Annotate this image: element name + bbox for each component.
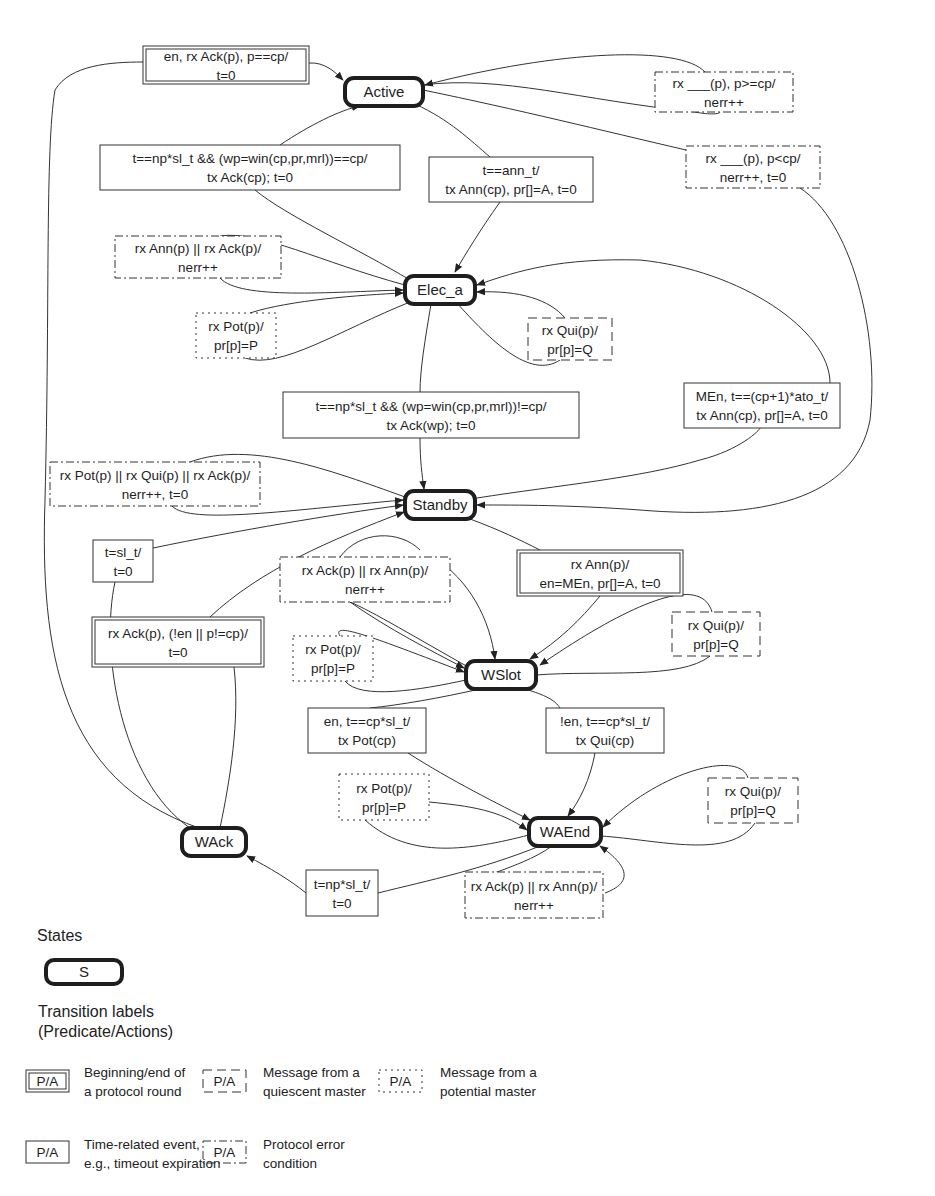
label-line: nerr++: [178, 260, 218, 275]
transition-label-np-sl-t: t=np*sl_t/t=0: [306, 870, 378, 916]
state-wslot: WSlot: [466, 661, 536, 689]
label-line: rx Qui(p)/: [725, 784, 782, 799]
label-line: rx ___(p), p>=cp/: [673, 76, 776, 91]
transition-label-rx-ann: rx Ann(p)/en=MEn, pr[]=A, t=0: [517, 550, 683, 596]
state-label: Elec_a: [417, 281, 464, 298]
legend-desc-line: quiescent master: [263, 1082, 366, 1101]
transition-label-pot-wslot: rx Pot(p)/pr[p]=P: [293, 636, 373, 681]
legend-sample-dotted: P/A: [379, 1070, 422, 1092]
label-line: pr[p]=P: [214, 338, 258, 353]
label-line: nerr++, t=0: [720, 170, 786, 185]
legend-transitions-sub: (Predicate/Actions): [38, 1022, 173, 1042]
state-label: WAck: [195, 833, 234, 850]
legend-desc-line: condition: [263, 1154, 345, 1173]
legend-desc-line: e.g., timeout expiration: [84, 1154, 221, 1173]
label-line: rx Qui(p)/: [688, 618, 745, 633]
transition-label-win-eq-cp: t==np*sl_t && (wp=win(cp,pr,mrl))==cp/tx…: [100, 145, 400, 190]
label-line: MEn, t==(cp+1)*ato_t/: [696, 389, 829, 404]
label-line: t==ann_t/: [482, 163, 539, 178]
transition-label-ann-t: t==ann_t/tx Ann(cp), pr[]=A, t=0: [429, 157, 593, 202]
edge-annack-to-elec: [220, 278, 403, 293]
label-line: pr[p]=P: [362, 800, 406, 815]
label-line: pr[p]=Q: [693, 637, 738, 652]
transition-label-pot-qui-ack: rx Pot(p) || rx Qui(p) || rx Ack(p)/nerr…: [50, 462, 260, 506]
legend-desc-dashed: Message from aquiescent master: [263, 1063, 366, 1101]
label-line: rx Pot(p)/: [356, 781, 412, 796]
label-line: t=0: [113, 564, 132, 579]
label-line: tx Qui(cp): [576, 733, 635, 748]
label-line: t==np*sl_t && (wp=win(cp,pr,mrl))!=cp/: [315, 399, 546, 414]
legend-desc-line: Protocol error: [263, 1135, 345, 1154]
edge-winne-to-standby: [420, 438, 424, 489]
transition-label-rx-p-lt-cp: rx ___(p), p<cp/nerr++, t=0: [686, 146, 820, 188]
legend-transitions-heading: Transition labels: [38, 1002, 154, 1022]
label-line: t==np*sl_t && (wp=win(cp,pr,mrl))==cp/: [132, 151, 367, 166]
transition-label-en-pot: en, t==cp*sl_t/tx Pot(cp): [308, 708, 426, 753]
label-line: rx Ann(p)/: [571, 557, 630, 572]
legend-desc-dashdot: Protocol errorcondition: [263, 1135, 345, 1173]
label-line: !en, t==cp*sl_t/: [560, 714, 650, 729]
legend-desc-line: potential master: [440, 1082, 537, 1101]
legend-desc-line: Message from a: [263, 1063, 366, 1082]
label-line: pr[p]=Q: [730, 803, 775, 818]
edge-npslt-to-wack: [247, 856, 306, 893]
label-line: tx Ack(wp); t=0: [387, 418, 476, 433]
legend-sample-dashed: P/A: [203, 1070, 246, 1092]
transition-labels: en, rx Ack(p), p==cp/t=0rx ___(p), p>=cp…: [50, 46, 840, 918]
edge-active-to-ann-t: [415, 104, 490, 157]
legend-sample-double: P/A: [26, 1070, 69, 1092]
label-line: t=0: [216, 68, 235, 83]
label-line: en, rx Ack(p), p==cp/: [164, 49, 289, 64]
transition-label-pot-elec: rx Pot(p)/pr[p]=P: [196, 313, 276, 358]
edge-qui-to-elec: [477, 292, 565, 318]
label-line: t=0: [332, 896, 351, 911]
state-label: WSlot: [481, 666, 522, 683]
label-line: rx Pot(p) || rx Qui(p) || rx Ack(p)/: [60, 468, 251, 483]
edge-rxann-to-wslot: [530, 596, 600, 659]
legend-states-heading: States: [37, 926, 82, 946]
state-wack: WAck: [182, 828, 246, 856]
transition-label-men-ato: MEn, t==(cp+1)*ato_t/tx Ann(cp), pr[]=A,…: [684, 383, 840, 428]
label-line: rx Pot(p)/: [305, 642, 361, 657]
label-line: P/A: [390, 1074, 412, 1089]
edge-ackann-to-wslot: [340, 536, 420, 557]
legend-desc-double: Beginning/end ofa protocol round: [84, 1063, 185, 1101]
transition-label-rx-ack-en: rx Ack(p), (!en || p!=cp)/t=0: [92, 617, 264, 667]
edge-ackann-to-waend: [600, 846, 624, 893]
transition-label-sl-t: t=sl_t/t=0: [93, 540, 153, 582]
edge-enrxack-to-active: [309, 63, 343, 80]
edge-nenqui-to-waend: [568, 753, 595, 816]
edge-wslot-to-qui: [536, 656, 710, 675]
legend-desc-line: Message from a: [440, 1063, 537, 1082]
label-line: nerr++: [704, 95, 744, 110]
edge-wslot-to-nenqui: [525, 689, 560, 708]
edge-elec-to-winne: [420, 304, 431, 392]
label-line: rx Ack(p), (!en || p!=cp)/: [108, 626, 248, 641]
state-waend: WAEnd: [529, 818, 601, 846]
label-line: t=sl_t/: [105, 545, 142, 560]
label-line: P/A: [37, 1145, 59, 1160]
state-label: Active: [364, 83, 405, 100]
legend-desc-dotted: Message from apotential master: [440, 1063, 537, 1101]
edge-standby-to-rxann: [470, 519, 540, 550]
transition-label-ack-ann-wslot: rx Ack(p) || rx Ann(p)/nerr++: [280, 557, 450, 602]
transition-label-en-rx-ack: en, rx Ack(p), p==cp/t=0: [143, 46, 309, 84]
legend-desc-line: Beginning/end of: [84, 1063, 185, 1082]
transition-label-ack-ann-waend: rx Ack(p) || rx Ann(p)/nerr++: [465, 872, 603, 918]
legend-desc-solid: Time-related event,e.g., timeout expirat…: [84, 1135, 221, 1173]
state-sample-label: S: [79, 963, 89, 980]
legend-samples: SP/AP/AP/AP/AP/A: [26, 960, 422, 1163]
label-line: t=0: [168, 645, 187, 660]
edge-wslot-to-pot: [345, 680, 466, 692]
legend-desc-line: a protocol round: [84, 1082, 185, 1101]
label-line: nerr++: [345, 582, 385, 597]
transition-label-qui-elec: rx Qui(p)/pr[p]=Q: [528, 318, 612, 360]
label-line: tx Ack(cp); t=0: [207, 170, 293, 185]
label-line: t=np*sl_t/: [314, 877, 371, 892]
edge-ann-t-to-elec: [455, 202, 500, 272]
legend-desc-line: Time-related event,: [84, 1135, 221, 1154]
state-active: Active: [345, 78, 423, 106]
edge-pot-to-elec: [250, 293, 403, 313]
label-line: P/A: [37, 1074, 59, 1089]
edge-active-to-lt: [423, 90, 686, 150]
